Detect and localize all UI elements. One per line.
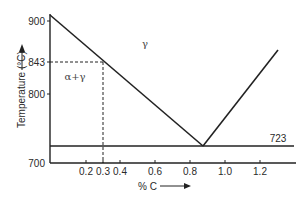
x-label-0.4: 0.4	[113, 166, 127, 177]
x-label-0.6: 0.6	[148, 166, 162, 177]
x-axis-arrow-icon	[184, 183, 191, 189]
y-axis-arrow-icon	[19, 44, 25, 52]
x-label-1.0: 1.0	[218, 166, 232, 177]
acm-line	[203, 50, 278, 146]
x-label-0.3: 0.3	[96, 166, 110, 177]
x-label-0.8: 0.8	[183, 166, 197, 177]
eutectoid-temp-label: 723	[270, 133, 287, 144]
y-label-700: 700	[28, 158, 45, 169]
y-label-800: 800	[28, 89, 45, 100]
x-axis-title: % C	[138, 181, 157, 192]
alpha-gamma-region-label: α+γ	[64, 71, 85, 82]
x-label-0.2: 0.2	[79, 166, 93, 177]
y-label-843: 843	[28, 57, 45, 68]
y-label-900: 900	[28, 16, 45, 27]
iron-carbon-phase-diagram: 900 843 800 700 0.2 0.3 0.4 0.6 0.8 1.0 …	[0, 0, 308, 198]
x-label-1.2: 1.2	[253, 166, 267, 177]
gamma-region-label: γ	[142, 38, 148, 49]
